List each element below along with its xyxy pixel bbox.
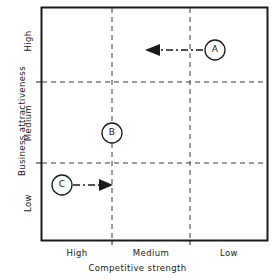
plot-frame <box>42 8 268 241</box>
y-tick-label-medium: Medium <box>23 100 33 146</box>
unit-label-c: C <box>52 179 72 189</box>
x-tick-label-low: Low <box>199 248 259 258</box>
matrix-plot-area <box>0 0 275 280</box>
x-axis-title: Competitive strength <box>0 263 275 273</box>
x-tick-label-high: High <box>47 248 107 258</box>
y-tick-label-low: Low <box>23 180 33 226</box>
y-tick-label-high: High <box>23 18 33 64</box>
x-tick-label-medium: Medium <box>121 248 181 258</box>
unit-label-b: B <box>102 127 122 137</box>
business-attractiveness-matrix: A B C Business attractiveness High Mediu… <box>0 0 275 280</box>
unit-label-a: A <box>205 44 225 54</box>
